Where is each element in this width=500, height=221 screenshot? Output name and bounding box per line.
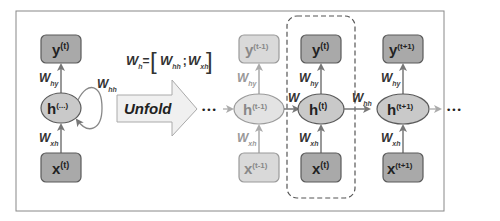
step-t-plus-1: y(t+1) Why h(t+1) Wxh x(t+1) — [377, 35, 429, 182]
step-t: y(t) Why h(t) Wxh x(t) — [298, 35, 344, 182]
step-t-minus-1: y(t-1) Why h(t-1) Wxh x(t-1) — [234, 35, 284, 182]
equation-bracket-close: ] — [206, 47, 213, 74]
equation-bracket-open: [ — [150, 47, 157, 74]
unfold-label: Unfold — [124, 100, 172, 117]
left-ellipsis: ••• — [201, 105, 217, 115]
right-ellipsis: ••• — [446, 105, 462, 115]
equation-lhs: Wh= — [126, 53, 150, 70]
rnn-unfold-diagram: y(t) Why h(...) Whh Wxh x(t) Wh= [ Whh; … — [0, 0, 500, 221]
